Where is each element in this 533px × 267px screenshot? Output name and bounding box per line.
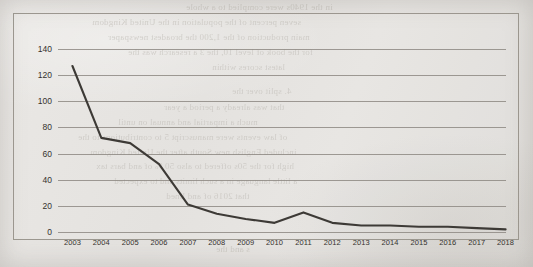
x-axis-tick-label: 2005 (117, 238, 143, 247)
y-axis-tick-label: 140 (22, 44, 52, 54)
y-axis-tick-label: 20 (22, 201, 52, 211)
x-axis-tick-label: 2017 (464, 238, 490, 247)
x-axis-tick-label: 2010 (262, 238, 288, 247)
x-axis-tick-label: 2016 (435, 238, 461, 247)
x-axis-tick-label: 2003 (59, 238, 85, 247)
y-axis-tick-label: 40 (22, 175, 52, 185)
x-axis-tick-label: 2013 (348, 238, 374, 247)
series-polyline (72, 66, 505, 229)
x-axis-tick-label: 2012 (319, 238, 345, 247)
x-axis-tick-label: 2009 (233, 238, 259, 247)
x-axis-tick-label: 2011 (290, 238, 316, 247)
x-axis-tick-label: 2008 (204, 238, 230, 247)
y-axis-tick-label: 100 (22, 96, 52, 106)
chart-frame: 020406080100120140 200320042005200620072… (13, 13, 519, 240)
y-axis-tick-label: 120 (22, 70, 52, 80)
y-axis-tick-label: 0 (22, 227, 52, 237)
x-axis-tick-label: 2014 (377, 238, 403, 247)
x-axis-tick-label: 2004 (88, 238, 114, 247)
y-axis-tick-label: 80 (22, 122, 52, 132)
x-axis-tick-label: 2007 (175, 238, 201, 247)
x-axis-tick-label: 2006 (146, 238, 172, 247)
gridline (58, 232, 506, 233)
plot-area: 020406080100120140 200320042005200620072… (58, 49, 520, 232)
x-axis-tick-label: 2015 (406, 238, 432, 247)
x-axis-tick-label: 2018 (493, 238, 519, 247)
y-axis-tick-label: 60 (22, 149, 52, 159)
line-series (58, 49, 520, 232)
